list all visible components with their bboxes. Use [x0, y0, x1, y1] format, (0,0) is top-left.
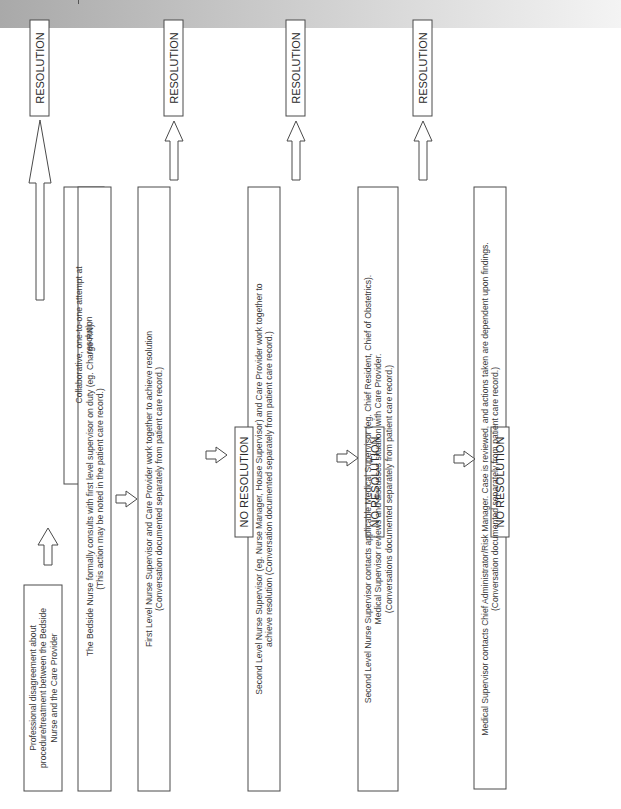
no-resolution-1-line: NO RESOLUTION	[238, 436, 250, 527]
arrow-right-icon	[206, 447, 227, 463]
no-resolution-2-text: NO RESOLUTION	[369, 436, 381, 527]
no-resolution-2-line: NO RESOLUTION	[369, 436, 381, 527]
arrow-right-icon	[454, 451, 475, 467]
resolution-3-line: RESOLUTION	[290, 32, 302, 104]
no-resolution-1-text: NO RESOLUTION	[238, 436, 250, 527]
arrow-up-icon	[29, 120, 51, 300]
step1-line: The Bedside Nurse formally consults with…	[85, 322, 95, 656]
resolution-4-line: RESOLUTION	[417, 32, 429, 104]
collaborative-line: Collaborative, one-to-one attempt at	[74, 266, 84, 404]
resolution-4-text: RESOLUTION	[417, 32, 429, 104]
resolution-2-text: RESOLUTION	[168, 32, 180, 104]
step3-text: Second Level Nurse Supervisor (eg. Nurse…	[254, 283, 275, 694]
step3-line: achieve resolution (Conversation documen…	[264, 331, 274, 647]
step2-text: First Level Nurse Supervisor and Care Pr…	[144, 331, 165, 647]
arrow-up-icon	[287, 121, 305, 180]
start-line: Professional disagreement about	[28, 625, 38, 751]
step5-line: Medical Supervisor contacts Chief Admini…	[480, 242, 490, 735]
resolution-1-text: RESOLUTION	[34, 32, 46, 104]
no-resolution-3-line: NO RESOLUTION	[494, 436, 506, 527]
resolution-3-text: RESOLUTION	[290, 32, 302, 104]
start-line: Nurse and the Care Provider	[49, 633, 59, 743]
step2-line: First Level Nurse Supervisor and Care Pr…	[144, 331, 154, 647]
step2-line: (Conversation documented separately from…	[154, 367, 164, 611]
resolution-2-line: RESOLUTION	[168, 32, 180, 104]
arrow-right-icon	[337, 450, 358, 466]
step3-line: Second Level Nurse Supervisor (eg. Nurse…	[254, 283, 264, 694]
step1-line: (This action may be noted in the patient…	[95, 388, 105, 590]
resolution-1-line: RESOLUTION	[34, 32, 46, 104]
step4-line: (Conversations documented separately fro…	[384, 365, 394, 614]
arrow-right-icon	[116, 491, 137, 507]
arrow-up-icon	[38, 528, 58, 565]
no-resolution-3-text: NO RESOLUTION	[494, 436, 506, 527]
start-line: procedure/treatment between the Bedside	[38, 608, 48, 768]
arrow-up-icon	[165, 121, 183, 180]
flowchart: Professional disagreement aboutprocedure…	[0, 0, 621, 809]
arrow-up-icon	[414, 121, 432, 180]
